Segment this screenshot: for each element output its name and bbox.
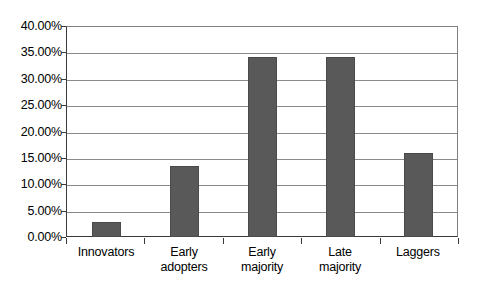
y-axis-tick-label: 30.00% [4,73,62,86]
bar-slot [379,27,457,237]
bar-chart: 40.00%35.00%30.00%25.00%20.00%15.00%10.0… [0,0,483,290]
y-axis-tick-label: 15.00% [4,152,62,165]
x-axis-category-line: Late [301,245,379,260]
x-axis-tick [144,238,145,244]
y-axis-tick-label: 10.00% [4,178,62,191]
x-axis-category-line: Innovators [67,245,145,260]
y-axis-tick [61,26,66,27]
y-axis-labels: 40.00%35.00%30.00%25.00%20.00%15.00%10.0… [0,0,62,290]
x-axis-category-label: Earlymajority [223,245,301,274]
y-axis-tick-label: 5.00% [4,205,62,218]
y-axis-tick-label: 40.00% [4,20,62,33]
x-axis-category-line: majority [301,260,379,275]
y-axis-tick [61,184,66,185]
bar-innovators [92,222,121,237]
y-axis-tick [61,79,66,80]
x-axis-category-line: Laggers [379,245,457,260]
x-axis-tick [301,238,302,244]
x-axis-category-label: Latemajority [301,245,379,274]
x-axis-category-label: Earlyadopters [145,245,223,274]
x-axis-category-line: adopters [145,260,223,275]
x-axis-category-line: Early [145,245,223,260]
y-axis-tick [61,211,66,212]
bar-slot [301,27,379,237]
x-axis-tick [66,238,67,244]
y-axis-tick-label: 25.00% [4,99,62,112]
bar-early-majority [248,57,277,237]
y-axis-tick [61,105,66,106]
bar-slot [67,27,145,237]
x-axis-tick [458,238,459,244]
y-axis-tick-label: 35.00% [4,46,62,59]
x-axis-labels: InnovatorsEarlyadoptersEarlymajorityLate… [67,245,457,274]
y-axis-tick-label: 0.00% [4,231,62,244]
bar-slot [223,27,301,237]
x-axis-tick [223,238,224,244]
y-axis-tick-label: 20.00% [4,126,62,139]
bar-laggers [404,153,433,237]
x-axis-category-line: Early [223,245,301,260]
y-axis-tick [61,52,66,53]
x-axis-category-label: Laggers [379,245,457,274]
y-axis-tick [61,158,66,159]
bar-slot [145,27,223,237]
bar-late-majority [326,57,355,237]
bar-early-adopters [170,166,199,237]
bars-layer [67,27,457,237]
y-axis-tick [61,132,66,133]
x-axis-category-label: Innovators [67,245,145,274]
x-axis-tick [380,238,381,244]
x-axis-category-line: majority [223,260,301,275]
